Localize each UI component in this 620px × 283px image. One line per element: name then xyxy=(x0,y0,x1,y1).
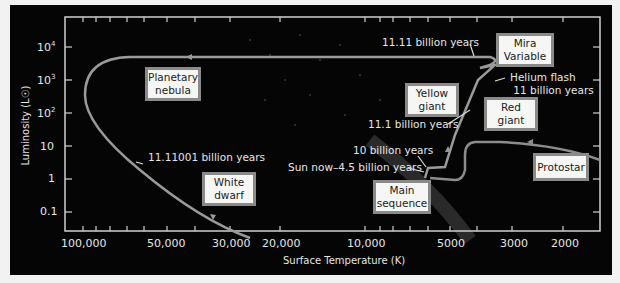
planetary-nebula-label: Planetary nebula xyxy=(145,67,201,101)
y-tick-label: 104 xyxy=(37,40,55,54)
y-tick-label: 1 xyxy=(48,172,55,185)
x-axis-title: Surface Temperature (K) xyxy=(283,255,405,266)
x-tick-label: 30,000 xyxy=(212,237,251,250)
x-tick-label: 2000 xyxy=(551,237,579,250)
annotation-11-1: 11.1 billion years xyxy=(368,118,458,131)
annotation-10: 10 billion years xyxy=(353,144,433,157)
mira-variable-label: Mira Variable xyxy=(496,33,554,67)
star-field xyxy=(249,34,381,126)
y-tick-label: 0.1 xyxy=(40,205,58,218)
y-tick-label: 103 xyxy=(37,73,55,87)
y-tick-label: 102 xyxy=(37,106,55,120)
track-arrow-icon xyxy=(186,54,192,60)
x-tick-label: 3000 xyxy=(500,237,528,250)
y-axis-title: Luminosity (L☉) xyxy=(20,81,31,171)
annotation-11-11001: 11.11001 billion years xyxy=(148,151,265,164)
y-tick-label: 10 xyxy=(40,140,54,153)
red-giant-label: Red giant xyxy=(484,97,538,131)
annotation-helium-flash: Helium flash 11 billion years xyxy=(510,71,594,97)
yellow-giant-label: Yellow giant xyxy=(405,83,459,117)
x-tick-label: 10,000 xyxy=(347,237,386,250)
x-tick-label: 20,000 xyxy=(262,237,301,250)
annotation-sun-now: Sun now–4.5 billion years xyxy=(288,161,422,174)
x-tick-label: 5000 xyxy=(437,237,465,250)
x-tick-label: 50,000 xyxy=(147,237,186,250)
white-dwarf-label: White dwarf xyxy=(202,172,256,206)
protostar-label: Protostar xyxy=(533,153,589,181)
annotation-11-11: 11.11 billion years xyxy=(382,36,479,49)
main-sequence-label: Main sequence xyxy=(373,180,431,214)
x-tick-label: 100,000 xyxy=(61,237,107,250)
